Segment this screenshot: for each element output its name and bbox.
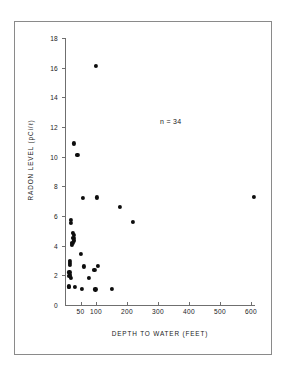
y-tick-label: 2 (44, 272, 58, 279)
y-tick-label: 0 (44, 302, 58, 309)
x-tick-label: 500 (214, 308, 226, 315)
x-tick-label: 100 (90, 308, 102, 315)
y-tick (62, 216, 66, 217)
x-tick-label: 50 (77, 308, 85, 315)
x-tick-label: 300 (152, 308, 164, 315)
sample-size-annotation: n = 34 (160, 118, 181, 125)
y-tick (62, 127, 66, 128)
y-tick-label: 14 (44, 94, 58, 101)
x-tick (158, 302, 159, 306)
y-tick-label: 12 (44, 124, 58, 131)
y-tick (62, 38, 66, 39)
x-tick (96, 302, 97, 306)
y-axis-title: RADON LEVEL (pCi/ℓ) (24, 60, 36, 260)
x-tick-label: 200 (121, 308, 133, 315)
y-tick-label: 6 (44, 213, 58, 220)
y-tick-label: 18 (44, 35, 58, 42)
figure: 50100200300400500600 024681012141618 DEP… (0, 0, 290, 383)
x-tick (251, 302, 252, 306)
x-tick (127, 302, 128, 306)
y-tick-label: 16 (44, 64, 58, 71)
y-axis-title-text: RADON LEVEL (pCi/ℓ) (27, 119, 34, 200)
x-axis-line (65, 305, 255, 306)
x-tick (189, 302, 190, 306)
x-axis-title: DEPTH TO WATER (FEET) (65, 330, 255, 337)
y-tick (62, 97, 66, 98)
x-tick-label: 600 (245, 308, 257, 315)
y-tick (62, 246, 66, 247)
y-tick-label: 8 (44, 183, 58, 190)
x-tick (81, 302, 82, 306)
y-tick (62, 186, 66, 187)
y-tick-label: 10 (44, 153, 58, 160)
y-tick (62, 275, 66, 276)
y-tick (62, 68, 66, 69)
y-tick (62, 157, 66, 158)
x-tick-label: 400 (183, 308, 195, 315)
y-axis-line (65, 38, 66, 305)
y-tick-label: 4 (44, 242, 58, 249)
x-tick (220, 302, 221, 306)
